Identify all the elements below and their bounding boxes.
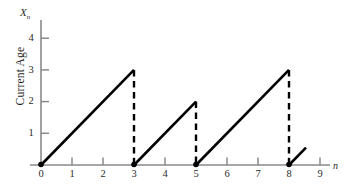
rise-segment-3 xyxy=(196,70,289,165)
x-axis-name-label: n xyxy=(333,160,338,171)
x-tick-label-9: 9 xyxy=(313,168,327,179)
x-tick-label-1: 1 xyxy=(65,168,79,179)
y-tick-label-2: 2 xyxy=(24,95,38,106)
y-axis-top-label: Xn xyxy=(20,6,30,21)
data-rising-segments xyxy=(41,70,306,165)
rise-segment-4-partial xyxy=(289,148,306,165)
y-axis-title: Current Age xyxy=(14,26,26,126)
y-tick-label-4: 4 xyxy=(24,32,38,43)
x-tick-label-8: 8 xyxy=(282,168,296,179)
x-tick-label-2: 2 xyxy=(96,168,110,179)
x-tick-label-4: 4 xyxy=(158,168,172,179)
x-tick-label-3: 3 xyxy=(127,168,141,179)
axes-group xyxy=(30,20,330,165)
y-tick-label-1: 1 xyxy=(24,127,38,138)
rise-segment-2 xyxy=(134,102,196,165)
y-tick-marks xyxy=(41,38,49,133)
renewal-marker-0 xyxy=(38,162,44,168)
x-tick-label-6: 6 xyxy=(220,168,234,179)
rise-segment-1 xyxy=(41,70,134,165)
x-tick-label-0: 0 xyxy=(34,168,48,179)
renewal-marker-3 xyxy=(131,162,137,168)
y-tick-label-3: 3 xyxy=(24,64,38,75)
x-tick-label-5: 5 xyxy=(189,168,203,179)
sawtooth-current-age-plot xyxy=(0,0,349,190)
renewal-marker-5 xyxy=(193,162,199,168)
figure-container: 4 3 2 1 0 1 2 3 4 5 6 7 8 9 Xn n Current… xyxy=(0,0,349,190)
y-axis-top-label-text: X xyxy=(20,6,27,18)
x-tick-label-7: 7 xyxy=(251,168,265,179)
renewal-marker-8 xyxy=(286,162,292,168)
y-axis-top-label-subscript: n xyxy=(27,13,31,21)
